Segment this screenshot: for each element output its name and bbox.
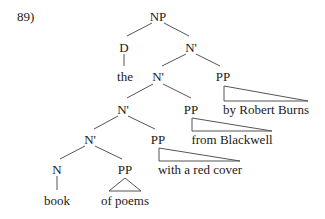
node-nbar-2: N' bbox=[152, 69, 164, 84]
phrase-from-blackwell: from Blackwell bbox=[191, 132, 273, 147]
triangle-pp4 bbox=[109, 178, 141, 191]
edge-nbar3-nbar4 bbox=[94, 116, 118, 129]
syntax-tree-diagram: 89) NP D N' the N' PP N' PP N' PP N PP b… bbox=[0, 0, 325, 219]
triangle-pp1 bbox=[224, 86, 308, 101]
node-pp-2: PP bbox=[184, 102, 198, 117]
triangle-pp2 bbox=[192, 118, 272, 131]
node-nbar-1: N' bbox=[185, 40, 197, 55]
edge-nbar1-nbar2 bbox=[162, 54, 186, 66]
edge-nbar2-nbar3 bbox=[127, 84, 153, 98]
edge-nbar3-pp3 bbox=[128, 116, 155, 129]
triangle-pp3 bbox=[159, 148, 240, 161]
phrase-of-poems: of poems bbox=[101, 193, 149, 208]
edge-np-d bbox=[127, 23, 152, 36]
phrase-by-robert-burns: by Robert Burns bbox=[223, 102, 309, 117]
edge-nbar2-pp2 bbox=[163, 84, 191, 98]
edge-nbar4-n bbox=[60, 146, 85, 159]
phrase-with-a-red-cover: with a red cover bbox=[158, 162, 243, 177]
edge-nbar4-pp4 bbox=[95, 146, 122, 159]
word-the: the bbox=[117, 69, 133, 84]
example-number: 89) bbox=[17, 9, 34, 24]
word-book: book bbox=[44, 193, 71, 208]
node-np: NP bbox=[150, 9, 167, 24]
edge-np-nbar1 bbox=[164, 23, 189, 36]
node-pp-1: PP bbox=[216, 69, 230, 84]
node-pp-3: PP bbox=[151, 132, 165, 147]
node-nbar-4: N' bbox=[84, 132, 96, 147]
node-n: N bbox=[52, 162, 62, 177]
edge-nbar1-pp1 bbox=[196, 54, 220, 66]
tree-nodes: NP D N' the N' PP N' PP N' PP N PP book bbox=[44, 9, 230, 208]
node-d: D bbox=[119, 40, 128, 55]
node-pp-4: PP bbox=[118, 162, 132, 177]
node-nbar-3: N' bbox=[117, 102, 129, 117]
